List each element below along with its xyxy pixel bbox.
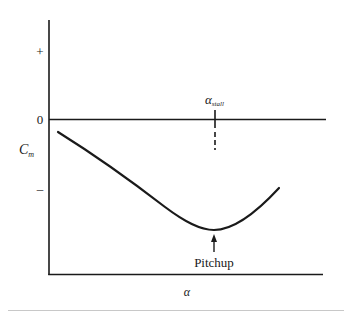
- y-axis-label: Cm: [19, 142, 34, 159]
- pitchup-arrow-head: [211, 234, 217, 242]
- cm-alpha-chart: + 0 – Cm αstall Pitchup α: [0, 0, 344, 315]
- y-tick-minus: –: [36, 181, 44, 196]
- y-axis-label-sub: m: [28, 150, 34, 159]
- pitchup-label: Pitchup: [194, 255, 234, 270]
- y-tick-plus: +: [36, 44, 43, 59]
- y-tick-zero: 0: [37, 112, 44, 127]
- cm-curve: [58, 132, 279, 230]
- alpha-stall-label: αstall: [205, 92, 224, 108]
- alpha-stall-sub: stall: [212, 100, 224, 108]
- x-axis-label: α: [184, 285, 191, 299]
